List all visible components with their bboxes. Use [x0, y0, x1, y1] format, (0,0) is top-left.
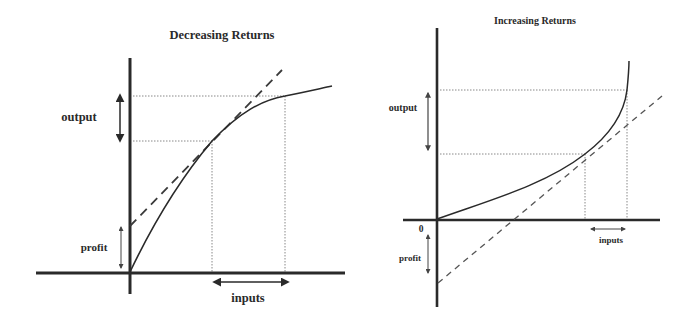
profit-label: profit: [81, 241, 108, 253]
diagram-title: Increasing Returns: [494, 15, 576, 26]
production-curve: [437, 61, 629, 219]
inputs-label: inputs: [599, 235, 624, 245]
inputs-label: inputs: [231, 291, 264, 305]
production-curve: [130, 86, 332, 272]
increasing-returns-diagram: Increasing Returns output 0 profit input…: [389, 15, 662, 307]
diagram-canvas: Decreasing Returns output profit inputs …: [0, 0, 696, 319]
output-label: output: [61, 110, 97, 124]
tangent-line: [438, 96, 662, 283]
decreasing-returns-diagram: Decreasing Returns output profit inputs: [36, 28, 345, 305]
profit-label: profit: [399, 253, 421, 263]
diagram-title: Decreasing Returns: [170, 28, 275, 42]
output-label: output: [389, 102, 418, 113]
origin-label: 0: [419, 224, 424, 234]
